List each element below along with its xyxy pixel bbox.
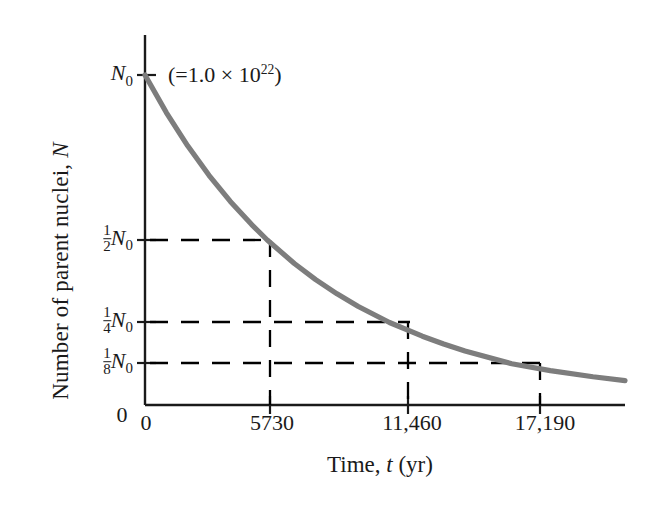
fraction-one-quarter: 14 bbox=[103, 305, 111, 337]
annotation-base: 10 bbox=[239, 62, 261, 87]
n-symbol: N bbox=[111, 307, 126, 332]
n-subscript: 0 bbox=[126, 319, 133, 335]
initial-value-annotation: (=1.0 × 1022) bbox=[168, 62, 282, 88]
y-tick-label-quarter-n0: 14N0 bbox=[103, 306, 133, 338]
x-axis-title-text: Time, bbox=[327, 452, 380, 477]
n-subscript: 0 bbox=[126, 360, 133, 376]
fraction-numerator: 1 bbox=[103, 223, 111, 238]
fraction-one-eighth: 18 bbox=[103, 346, 111, 378]
decay-curve bbox=[145, 75, 625, 381]
y-tick-label-n0: N0 bbox=[111, 60, 133, 89]
x-tick-label-0: 0 bbox=[141, 410, 152, 436]
fraction-numerator: 1 bbox=[103, 305, 111, 320]
n0-symbol: N bbox=[111, 60, 126, 85]
fraction-denominator: 4 bbox=[103, 321, 111, 337]
n0-subscript: 0 bbox=[126, 73, 133, 89]
x-axis-title: Time, t (yr) bbox=[145, 452, 615, 478]
x-tick-label-17190: 17,190 bbox=[515, 410, 576, 436]
n-symbol: N bbox=[111, 348, 126, 373]
fraction-numerator: 1 bbox=[103, 346, 111, 361]
origin-label: 0 bbox=[117, 402, 128, 428]
y-tick-label-half-n0: 12N0 bbox=[103, 224, 133, 256]
fraction-one-half: 12 bbox=[103, 223, 111, 255]
x-axis-title-units: (yr) bbox=[398, 452, 432, 477]
x-tick-label-11460: 11,460 bbox=[382, 410, 442, 436]
x-axis-title-symbol: t bbox=[386, 452, 392, 477]
n-subscript: 0 bbox=[126, 237, 133, 253]
annotation-close: ) bbox=[274, 62, 281, 87]
y-axis-title: Number of parent nuclei, N bbox=[48, 106, 74, 436]
n-symbol: N bbox=[111, 225, 126, 250]
decay-chart-figure: Number of parent nuclei, N Time, t (yr) … bbox=[0, 0, 659, 516]
chart-plot-area bbox=[0, 0, 659, 516]
y-tick-label-eighth-n0: 18N0 bbox=[103, 347, 133, 379]
y-axis-title-symbol: N bbox=[48, 142, 73, 158]
fraction-denominator: 2 bbox=[103, 239, 111, 255]
x-tick-label-5730: 5730 bbox=[250, 410, 294, 436]
annotation-open: (=1.0 bbox=[168, 62, 215, 87]
y-axis-title-text: Number of parent nuclei, bbox=[48, 164, 73, 400]
annotation-times: × bbox=[221, 62, 233, 87]
annotation-exponent: 22 bbox=[261, 62, 275, 77]
fraction-denominator: 8 bbox=[103, 362, 111, 378]
